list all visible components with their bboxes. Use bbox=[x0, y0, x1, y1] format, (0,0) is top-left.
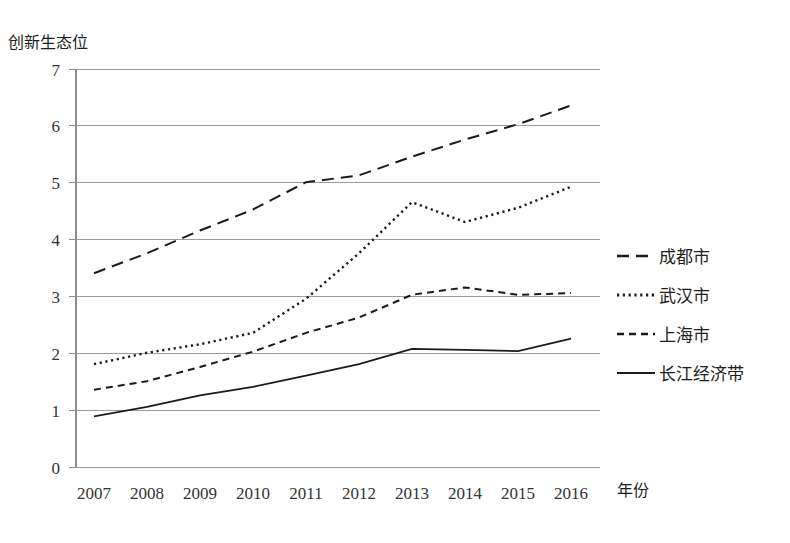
gridlines bbox=[76, 70, 600, 468]
y-tick-label: 1 bbox=[52, 402, 61, 421]
data-series bbox=[94, 105, 571, 416]
x-tick-label: 2016 bbox=[554, 484, 588, 503]
chart-legend: 成都市武汉市上海市长江经济带 bbox=[617, 247, 744, 384]
y-tick-label: 7 bbox=[52, 61, 61, 80]
x-tick-label: 2009 bbox=[183, 484, 217, 503]
x-tick-label: 2010 bbox=[236, 484, 270, 503]
x-tick-label: 2012 bbox=[342, 484, 376, 503]
x-axis-title: 年份 bbox=[617, 481, 649, 500]
y-tick-label: 0 bbox=[52, 459, 61, 478]
y-tick-label: 3 bbox=[52, 288, 61, 307]
x-axis-tick-labels: 2007200820092010201120122013201420152016 bbox=[77, 484, 588, 503]
x-tick-label: 2008 bbox=[130, 484, 164, 503]
series-line-上海市 bbox=[94, 287, 571, 389]
series-line-武汉市 bbox=[94, 187, 571, 364]
y-tick-label: 6 bbox=[52, 117, 61, 136]
legend-label: 成都市 bbox=[659, 247, 710, 267]
y-tick-label: 4 bbox=[52, 231, 61, 250]
series-line-长江经济带 bbox=[94, 339, 571, 417]
x-tick-label: 2013 bbox=[395, 484, 429, 503]
y-tick-label: 5 bbox=[52, 174, 61, 193]
legend-label: 上海市 bbox=[659, 325, 710, 345]
x-tick-label: 2014 bbox=[448, 484, 483, 503]
y-tick-label: 2 bbox=[52, 345, 61, 364]
legend-label: 武汉市 bbox=[659, 286, 710, 306]
chart-canvas: 创新生态位 年份 01234567 2007200820092010201120… bbox=[0, 0, 790, 543]
legend-label: 长江经济带 bbox=[659, 364, 744, 384]
x-tick-label: 2007 bbox=[77, 484, 112, 503]
x-tick-label: 2015 bbox=[501, 484, 535, 503]
series-line-成都市 bbox=[94, 105, 571, 273]
y-axis-title: 创新生态位 bbox=[8, 33, 88, 52]
x-tick-label: 2011 bbox=[289, 484, 322, 503]
y-axis-ticks: 01234567 bbox=[52, 61, 77, 478]
line-chart: 创新生态位 年份 01234567 2007200820092010201120… bbox=[0, 0, 790, 543]
